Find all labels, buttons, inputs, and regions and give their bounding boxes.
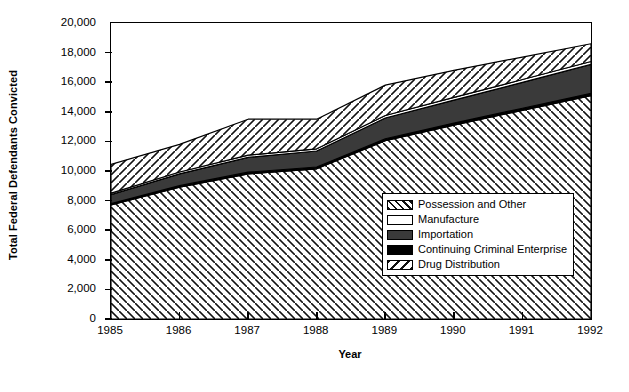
legend-item: Importation	[387, 228, 567, 241]
legend-item: Manufacture	[387, 213, 567, 226]
legend-swatch-icon	[387, 215, 413, 225]
x-axis-title: Year	[110, 348, 590, 360]
y-tick-mark	[105, 229, 112, 231]
y-tick-mark	[105, 81, 112, 83]
legend-item: Drug Distribution	[387, 258, 567, 271]
legend-swatch-icon	[387, 245, 413, 255]
x-tick-mark	[247, 312, 249, 319]
x-tick-mark	[522, 312, 524, 319]
x-tick-label: 1986	[166, 324, 192, 336]
legend-item: Continuing Criminal Enterprise	[387, 243, 567, 256]
legend-item: Possession and Other	[387, 198, 567, 211]
y-tick-mark	[105, 289, 112, 291]
legend-swatch-icon	[387, 260, 413, 270]
y-tick-label: 10,000	[61, 164, 96, 176]
x-axis-tick-labels: 19851986198719881989199019911992	[110, 324, 590, 344]
legend-label: Importation	[418, 229, 473, 240]
y-tick-label: 18,000	[61, 46, 96, 58]
y-tick-mark	[105, 170, 112, 172]
x-tick-label: 1990	[440, 324, 466, 336]
y-tick-mark	[105, 52, 112, 54]
x-tick-label: 1987	[234, 324, 260, 336]
x-tick-mark	[316, 312, 318, 319]
y-tick-label: 12,000	[61, 134, 96, 146]
y-tick-mark	[105, 318, 112, 320]
x-tick-label: 1985	[97, 324, 123, 336]
chart-figure: Total Federal Defendants Convicted 02,00…	[0, 0, 629, 392]
legend-label: Manufacture	[418, 214, 479, 225]
y-tick-label: 0	[90, 312, 96, 324]
x-tick-mark	[179, 312, 181, 319]
legend-swatch-icon	[387, 230, 413, 240]
x-tick-label: 1989	[371, 324, 397, 336]
legend-label: Drug Distribution	[418, 259, 500, 270]
y-tick-label: 6,000	[67, 223, 96, 235]
legend-swatch-icon	[387, 200, 413, 210]
y-tick-label: 2,000	[67, 282, 96, 294]
y-axis-tick-labels: 02,0004,0006,0008,00010,00012,00014,0001…	[26, 0, 96, 392]
chart-legend: Possession and OtherManufactureImportati…	[382, 193, 574, 276]
y-tick-mark	[105, 200, 112, 202]
x-tick-label: 1988	[303, 324, 329, 336]
y-tick-label: 14,000	[61, 105, 96, 117]
x-tick-mark	[453, 312, 455, 319]
x-tick-label: 1991	[509, 324, 535, 336]
x-tick-mark	[384, 312, 386, 319]
y-tick-label: 4,000	[67, 253, 96, 265]
y-tick-mark	[105, 141, 112, 143]
x-tick-label: 1992	[577, 324, 603, 336]
y-tick-mark	[105, 259, 112, 261]
y-tick-label: 20,000	[61, 16, 96, 28]
legend-label: Continuing Criminal Enterprise	[418, 244, 567, 255]
y-axis-title: Total Federal Defendants Convicted	[2, 0, 24, 330]
legend-label: Possession and Other	[418, 199, 526, 210]
y-tick-mark	[105, 111, 112, 113]
y-tick-label: 16,000	[61, 75, 96, 87]
y-tick-label: 8,000	[67, 194, 96, 206]
